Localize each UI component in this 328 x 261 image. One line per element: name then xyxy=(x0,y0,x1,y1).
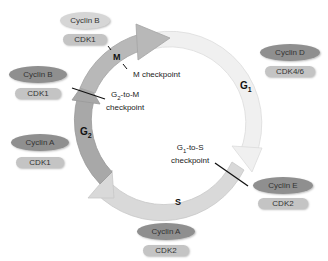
cyclin-b-left: Cyclin B xyxy=(9,66,67,83)
phase-g1-label: G1 xyxy=(240,80,252,93)
cdk4-6-right: CDK4/6 xyxy=(265,66,315,77)
cdk2-right: CDK2 xyxy=(258,198,308,209)
phase-m-label: M xyxy=(113,52,121,62)
s-arc xyxy=(95,162,244,221)
phase-s-label: S xyxy=(175,197,181,207)
phase-g2-label: G2 xyxy=(80,126,92,139)
cyclin-d-right: Cyclin D xyxy=(260,44,320,61)
g1-arc xyxy=(152,31,262,158)
cdk1-left-upper: CDK1 xyxy=(15,88,61,99)
cyclin-a-bottom: Cyclin A xyxy=(137,223,195,240)
cyclin-a-left: Cyclin A xyxy=(11,134,69,151)
g1s-checkpoint-label: G1-to-S checkpoint xyxy=(171,143,209,165)
cell-cycle-ring xyxy=(0,0,328,261)
g2m-checkpoint-label: G2-to-M checkpoint xyxy=(106,90,144,112)
m-pointer-bottom xyxy=(123,64,127,69)
cdk2-bottom: CDK2 xyxy=(143,245,189,256)
cyclin-e-right: Cyclin E xyxy=(253,177,313,194)
cyclin-b-top: Cyclin B xyxy=(60,12,110,29)
m-checkpoint-label: M checkpoint xyxy=(133,70,180,79)
cdk1-left-lower: CDK1 xyxy=(16,157,64,168)
cdk1-top: CDK1 xyxy=(63,34,107,45)
